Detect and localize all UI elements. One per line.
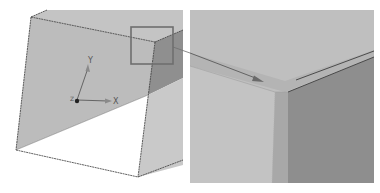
z-axis-dot-icon	[75, 99, 79, 103]
y-axis-label: Y	[87, 56, 93, 65]
x-axis-label: X	[113, 97, 119, 106]
right-panel-zoom-view	[190, 10, 374, 183]
figure-canvas: Y X Z	[0, 0, 380, 193]
z-axis-label: Z	[70, 95, 74, 102]
left-panel-3d-view: Y X Z	[16, 10, 190, 177]
